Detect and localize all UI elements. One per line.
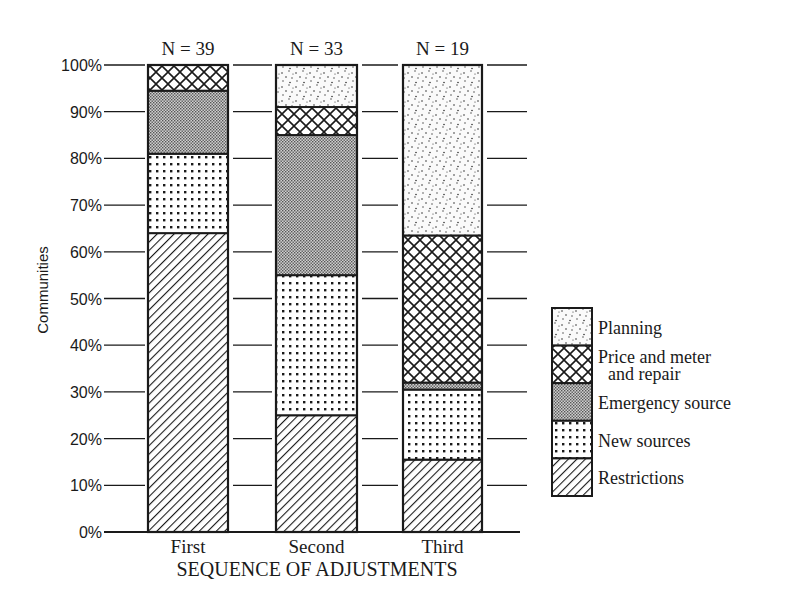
bar-segment-emergency-source <box>403 383 482 390</box>
legend-swatch <box>552 383 592 421</box>
bar-segment-restrictions <box>148 233 228 532</box>
y-tick-label: 0% <box>79 524 102 541</box>
y-tick-label: 60% <box>70 244 102 261</box>
legend-swatch <box>552 458 592 496</box>
legend-item: Restrictions <box>552 458 684 496</box>
bars <box>148 65 482 532</box>
stacked-bar-chart: 0%10%20%30%40%50%60%70%80%90%100% N = 39… <box>0 0 803 606</box>
bar-segment-planning <box>403 65 482 235</box>
x-axis-labels: FirstSecondThird <box>171 536 465 557</box>
n-annotation: N = 39 <box>162 38 215 59</box>
y-tick-label: 40% <box>70 337 102 354</box>
legend-label: and repair <box>608 364 680 384</box>
bar-segment-price-and-meter-and-repair <box>148 65 228 91</box>
y-axis-title: Communities <box>34 246 51 334</box>
legend-item: Emergency source <box>552 383 731 421</box>
legend: PlanningPrice and meterand repairEmergen… <box>552 308 731 496</box>
bar-third <box>403 65 482 532</box>
bar-second <box>276 65 357 532</box>
y-tick-label: 50% <box>70 291 102 308</box>
bar-segment-new-sources <box>403 390 482 460</box>
bar-segment-restrictions <box>403 460 482 532</box>
x-tick-label: Third <box>421 536 464 557</box>
legend-swatch <box>552 308 592 346</box>
y-axis-ticks: 0%10%20%30%40%50%60%70%80%90%100% <box>61 57 102 541</box>
x-tick-label: Second <box>289 536 345 557</box>
y-tick-label: 10% <box>70 477 102 494</box>
legend-swatch <box>552 346 592 384</box>
y-tick-label: 100% <box>61 57 102 74</box>
bar-segment-new-sources <box>276 275 357 415</box>
legend-label: Emergency source <box>598 393 731 413</box>
bar-segment-new-sources <box>148 154 228 233</box>
legend-label: Restrictions <box>598 468 684 488</box>
legend-swatch <box>552 421 592 459</box>
bar-segment-emergency-source <box>148 91 228 154</box>
bar-segment-price-and-meter-and-repair <box>403 235 482 382</box>
legend-item: Price and meterand repair <box>552 346 711 384</box>
y-tick-label: 70% <box>70 197 102 214</box>
y-tick-label: 80% <box>70 150 102 167</box>
bar-first <box>148 65 228 532</box>
legend-item: New sources <box>552 421 690 459</box>
n-annotation: N = 19 <box>416 38 469 59</box>
n-annotation: N = 33 <box>290 38 343 59</box>
legend-label: New sources <box>598 431 690 451</box>
legend-item: Planning <box>552 308 662 346</box>
legend-label: Planning <box>598 318 662 338</box>
y-tick-label: 20% <box>70 431 102 448</box>
bar-segment-emergency-source <box>276 135 357 275</box>
y-tick-label: 30% <box>70 384 102 401</box>
bar-segment-price-and-meter-and-repair <box>276 107 357 135</box>
n-annotations: N = 39N = 33N = 19 <box>162 38 469 59</box>
bar-segment-restrictions <box>276 415 357 532</box>
x-axis-title: SEQUENCE OF ADJUSTMENTS <box>176 558 457 580</box>
bar-segment-planning <box>276 65 357 107</box>
x-tick-label: First <box>171 536 207 557</box>
y-tick-label: 90% <box>70 104 102 121</box>
